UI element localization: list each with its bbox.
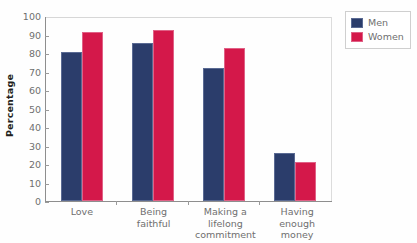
y-tick-mark	[45, 202, 49, 203]
legend-label: Women	[368, 32, 404, 42]
y-tick-label: 20	[19, 160, 41, 170]
legend-swatch-men	[351, 18, 363, 28]
x-tick-label: Love	[46, 206, 118, 241]
bar-group	[260, 17, 331, 201]
y-tick-label: 90	[19, 31, 41, 41]
x-axis-line	[45, 201, 332, 203]
y-axis-title-label: Percentage	[5, 73, 16, 136]
bar-men	[132, 43, 153, 201]
bar-group	[189, 17, 260, 201]
bar-men	[203, 68, 224, 200]
bar-women	[295, 162, 316, 201]
legend-item-men: Men	[351, 16, 405, 30]
y-tick-label: 70	[19, 68, 41, 78]
legend-swatch-women	[351, 32, 363, 42]
y-tick-label: 50	[19, 105, 41, 115]
bar-groups	[46, 17, 331, 201]
legend-item-women: Women	[351, 30, 405, 44]
bar-women	[153, 30, 174, 201]
plot-area: 0102030405060708090100	[45, 17, 332, 202]
bar-women	[224, 48, 245, 200]
y-tick-label: 80	[19, 49, 41, 59]
x-axis-group-separator	[259, 201, 260, 205]
y-tick-label: 10	[19, 179, 41, 189]
y-tick-label: 40	[19, 123, 41, 133]
legend-label: Men	[368, 18, 388, 28]
bar-group	[46, 17, 117, 201]
y-tick-label: 60	[19, 86, 41, 96]
y-tick-label: 0	[19, 197, 41, 207]
plot-right-border	[331, 17, 332, 202]
x-axis-group-separator	[188, 201, 189, 205]
bar-men	[61, 52, 82, 201]
bar-men	[274, 153, 295, 201]
x-tick-label: Havingenoughmoney	[261, 206, 333, 241]
y-axis-title: Percentage	[2, 50, 18, 160]
x-tick-label: Making alifelongcommitment	[190, 206, 262, 241]
x-tick-label: Beingfaithful	[118, 206, 190, 241]
bar-women	[82, 32, 103, 201]
x-axis-labels: LoveBeingfaithfulMaking alifelongcommitm…	[46, 206, 333, 241]
bar-group	[117, 17, 188, 201]
y-tick-label: 100	[19, 12, 41, 22]
x-axis-group-separator	[116, 201, 117, 205]
bar-chart-figure: Percentage 0102030405060708090100 LoveBe…	[0, 0, 417, 243]
chart-legend: MenWomen	[345, 11, 411, 49]
y-tick-label: 30	[19, 142, 41, 152]
